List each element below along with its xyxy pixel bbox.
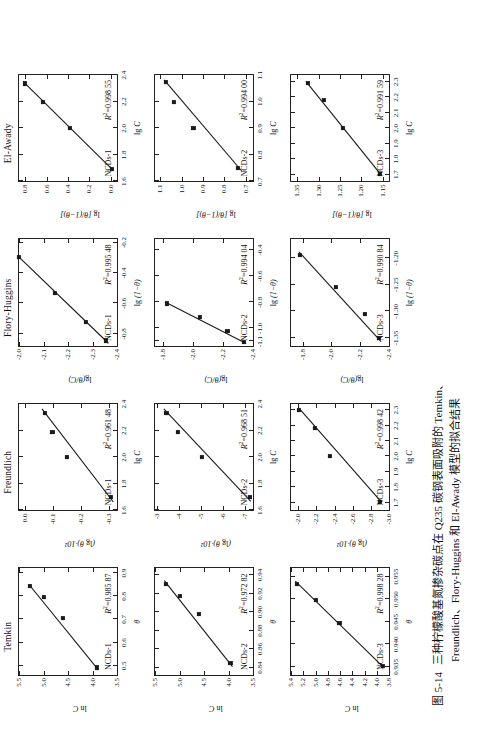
y-tick-right [291, 569, 292, 573]
y-tick-right [353, 404, 354, 408]
y-tick-right [204, 569, 205, 573]
y-tick [204, 671, 205, 675]
x-tick-top [19, 510, 23, 511]
x-tick-top [291, 440, 295, 441]
y-tick-right [201, 404, 202, 408]
y-tick [68, 342, 69, 346]
y-tick-right [89, 75, 90, 79]
y-tick-label: 3.5 [113, 678, 121, 687]
data-point [298, 253, 302, 257]
y-tick-label: -2.4 [331, 514, 339, 525]
y-tick-right [389, 404, 390, 408]
x-tick-top [291, 284, 295, 285]
chart-freundlich-ncds1: 0.0-0.1-0.2-0.31.61.82.02.22.4NCDs-1R2=0… [16, 399, 144, 546]
r-squared-label: R2=0.985 87 [102, 574, 113, 614]
x-tick-label: 0.88 [256, 624, 264, 636]
y-tick-right [316, 404, 317, 408]
y-tick [180, 671, 181, 675]
data-point [23, 82, 27, 86]
series-label: NCDs-3 [376, 479, 385, 506]
y-tick-right [25, 404, 26, 408]
y-tick-right [303, 569, 304, 573]
x-tick [385, 310, 389, 311]
figure-canvas: Temkin 3.54.04.55.05.50.50.60.70.80.9NCD… [0, 0, 496, 736]
y-tick-right [328, 569, 329, 573]
y-tick-label: 0.2 [85, 185, 93, 194]
x-tick [249, 301, 253, 302]
series-label: NCDs-3 [376, 314, 385, 341]
x-tick [249, 327, 253, 328]
y-tick-right [389, 240, 390, 244]
y-tick [201, 507, 202, 511]
x-tick-label: -0.6 [120, 298, 128, 309]
data-point [16, 255, 20, 259]
x-tick-label: -1.30 [392, 304, 400, 319]
y-axis-label: ln C [209, 704, 223, 713]
plot-panel-flory-ncds2: -1.8-2.0-2.2-2.4-0.4-0.6-0.8-1.0-1.1NCDs… [154, 239, 254, 348]
y-tick [331, 342, 332, 346]
x-tick-label: 1.9 [392, 468, 400, 477]
x-tick-top [291, 576, 295, 577]
x-tick-top [19, 242, 23, 243]
x-tick-label: 0.945 [392, 614, 400, 630]
x-tick [385, 576, 389, 577]
plot-cell: -2.0-2.2-2.4-2.6-2.8-3.01.71.81.92.02.12… [288, 399, 416, 546]
fit-line [29, 584, 99, 670]
x-tick [385, 81, 389, 82]
x-tick-top [19, 272, 23, 273]
x-tick [385, 143, 389, 144]
x-tick [113, 302, 117, 303]
y-tick [291, 671, 292, 675]
x-tick [249, 101, 253, 102]
x-tick-label: 1.8 [120, 480, 128, 489]
y-tick [328, 671, 329, 675]
y-tick-label: 1.35 [293, 185, 301, 197]
caption-line-2: Freundlich、Flory-Huggins 和 El-Awady 模型的拟… [447, 56, 464, 662]
y-tick-right [316, 569, 317, 573]
data-point [295, 582, 299, 586]
y-tick [246, 178, 247, 182]
x-axis-label: lg (1−θ) [269, 239, 278, 348]
x-tick [113, 242, 117, 243]
y-tick [223, 507, 224, 511]
y-tick [89, 178, 90, 182]
data-point [172, 100, 176, 104]
y-tick-right [365, 569, 366, 573]
x-tick [113, 101, 117, 102]
x-tick-label: -0.2 [120, 237, 128, 248]
x-tick-top [19, 101, 23, 102]
x-tick-top [291, 81, 295, 82]
y-tick-label: -2.3 [89, 349, 97, 360]
y-tick [163, 342, 164, 346]
x-tick-top [19, 572, 23, 573]
x-tick-top [155, 483, 159, 484]
x-tick-top [291, 158, 295, 159]
y-tick-right [193, 240, 194, 244]
x-tick-top [291, 96, 295, 97]
x-tick-top [291, 455, 295, 456]
x-tick-top [19, 642, 23, 643]
plot-cell: 3.84.04.24.44.64.85.05.25.40.9350.9400.9… [288, 564, 416, 711]
data-point [50, 430, 54, 434]
x-tick-label: 0.955 [392, 569, 400, 585]
x-axis-label: θ [133, 568, 142, 677]
y-axis-label: ln C [73, 704, 87, 713]
y-tick-label: -2.4 [113, 349, 121, 360]
r-squared-label: R2=0.998 55 [102, 80, 113, 120]
y-tick-right [68, 75, 69, 79]
data-point [164, 582, 168, 586]
y-tick [253, 671, 254, 675]
series-label: NCDs-1 [104, 479, 113, 506]
x-tick-label: 2.0 [120, 453, 128, 462]
y-tick [365, 671, 366, 675]
x-axis-label: lg C [269, 74, 278, 183]
y-tick-right [117, 240, 118, 244]
plot-cell: -1.8-2.0-2.2-2.4-1.20-1.25-1.30-1.35NCDs… [288, 235, 416, 382]
x-tick [249, 74, 253, 75]
x-tick-label: -0.8 [120, 328, 128, 339]
x-tick [385, 112, 389, 113]
x-tick-top [155, 456, 159, 457]
series-label: NCDs-2 [240, 314, 249, 341]
x-tick [113, 127, 117, 128]
y-tick-right [331, 240, 332, 244]
